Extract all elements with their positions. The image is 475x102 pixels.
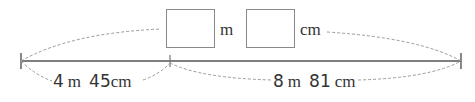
segment2-arc-right bbox=[358, 61, 461, 80]
segment2-m-unit: m bbox=[288, 72, 301, 91]
segment2-meters: 8 bbox=[273, 71, 284, 91]
centimeters-unit-label: cm bbox=[300, 21, 321, 38]
segment1-meters: 4 bbox=[53, 71, 64, 91]
total-arc-left bbox=[21, 29, 161, 61]
segment1-arc-left bbox=[21, 61, 52, 81]
segment1-arc-right bbox=[143, 63, 170, 80]
meters-unit-label: m bbox=[220, 21, 233, 38]
segment2-arc-left bbox=[170, 63, 272, 80]
segment2-cm-unit: cm bbox=[335, 72, 356, 91]
total-arc-right bbox=[327, 32, 461, 61]
centimeters-answer-box[interactable] bbox=[246, 9, 295, 48]
segment1-m-unit: m bbox=[68, 72, 81, 91]
segment2-centimeters: 81 bbox=[309, 71, 331, 91]
segment1-length-label: 4 m 45cm bbox=[53, 73, 131, 90]
segment1-cm-unit: cm bbox=[111, 72, 132, 91]
segment1-centimeters: 45 bbox=[89, 71, 111, 91]
meters-answer-box[interactable] bbox=[166, 9, 215, 48]
segment2-length-label: 8 m 81 cm bbox=[273, 73, 355, 90]
